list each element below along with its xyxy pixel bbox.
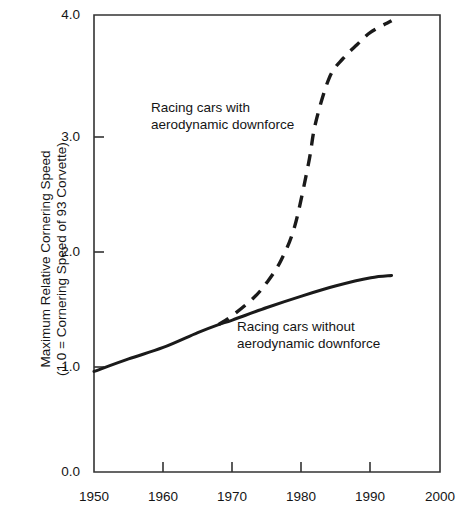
series-line-without-downforce	[94, 275, 392, 371]
cornering-speed-chart: Maximum Relative Cornering Speed (1.0 = …	[0, 0, 457, 526]
y-axis-ticks	[94, 137, 104, 367]
plot-svg	[0, 0, 457, 526]
plot-frame	[94, 15, 440, 472]
plot-frame-path	[94, 15, 440, 472]
x-axis-ticks	[163, 462, 370, 472]
